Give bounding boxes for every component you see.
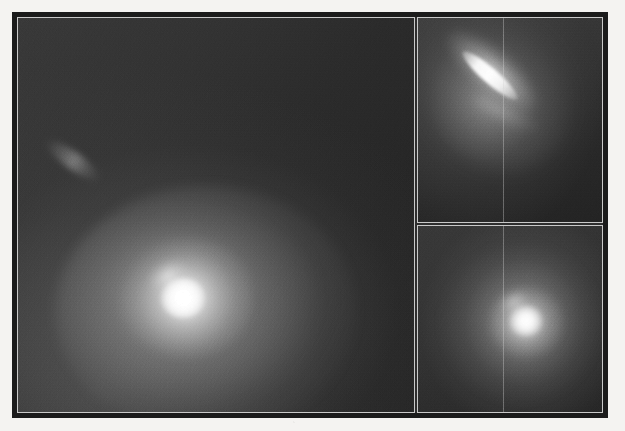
figure-plate-frame [12, 12, 608, 418]
sky-background-top [418, 18, 602, 222]
sky-background-main [18, 18, 414, 412]
detector-seam-line-bottom [503, 226, 504, 412]
top-zoom-panel[interactable] [417, 17, 603, 223]
bottom-zoom-panel[interactable] [417, 225, 603, 413]
main-field-panel[interactable] [17, 17, 415, 413]
detector-seam-line-top [503, 18, 504, 222]
sky-background-bottom [418, 226, 602, 412]
figure-root [0, 0, 625, 431]
figure-plate-inner [17, 17, 603, 413]
